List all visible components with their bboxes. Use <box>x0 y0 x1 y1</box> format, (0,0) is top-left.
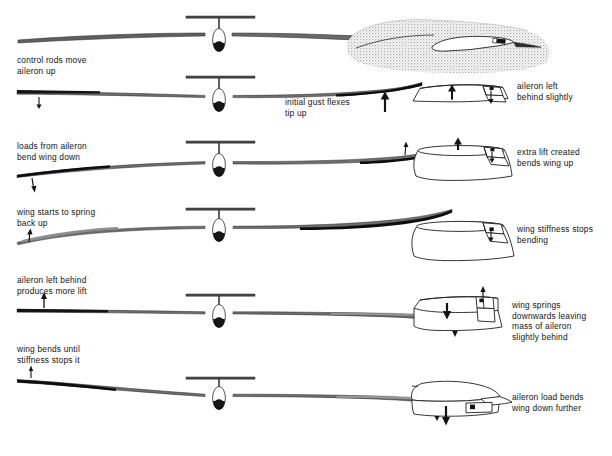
stage-6-left-label: wing bends until stiffness stops it <box>17 344 80 365</box>
stage-2-left-down-arrow <box>36 97 41 109</box>
stage-6-detail-label: aileron load bends wing down further <box>512 392 584 413</box>
stage-6-wing-panel-detail <box>411 381 512 425</box>
stage-2-right-up-arrow <box>381 92 390 112</box>
stage-4-wing-panel-detail <box>412 221 514 260</box>
diagram-canvas: control rods move aileron up initial gus… <box>0 0 612 456</box>
stage-3-right-up-arrow <box>404 141 409 155</box>
stage-2-detail-label: aileron left behind slightly <box>517 81 573 102</box>
stage-4-left-label: wing starts to spring back up <box>17 207 95 228</box>
stage-2-wing-panel-detail <box>413 85 508 104</box>
stage-2-glider <box>17 76 422 112</box>
stage-2-right-label: initial gust flexes tip up <box>285 97 350 118</box>
stage-3-left-down-arrow <box>31 178 36 192</box>
stage-4-detail-label: wing stiffness stops bending <box>517 224 593 245</box>
stage-3-left-label: loads from aileron bend wing down <box>17 141 87 162</box>
stage-5-wing-panel-detail <box>414 286 502 331</box>
stage-5-left-label: aileron left behind produces more lift <box>17 275 87 296</box>
stage-2-left-label: control rods move aileron up <box>17 55 87 76</box>
stage-6-left-up-arrow <box>29 365 33 378</box>
stage-5-glider <box>17 294 450 328</box>
stage-6-glider <box>17 377 444 410</box>
stage-3-detail-label: extra lift created bends wing up <box>517 147 580 168</box>
stage-5-detail-label: wing springs downwards leaving mass of a… <box>512 300 586 342</box>
stage-3-wing-panel-detail <box>414 137 512 180</box>
